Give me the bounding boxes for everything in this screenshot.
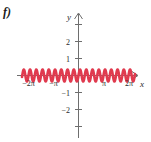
- y-axis-label: y: [66, 12, 71, 22]
- sine-curve: [22, 70, 135, 82]
- y-label-1: 1: [66, 55, 70, 64]
- x-label-2pi: 2π: [125, 79, 133, 88]
- x-label-pi: π: [102, 79, 106, 88]
- x-label-neg-2pi: −2π: [22, 79, 35, 88]
- part-label: f): [3, 6, 11, 18]
- sine-wave-figure: f) 2 1 −1 −2 −2π −π π 2π y: [0, 0, 151, 142]
- coordinate-plot: 2 1 −1 −2 −2π −π π 2π y x: [0, 0, 151, 142]
- y-label-neg-1: −1: [61, 89, 70, 98]
- y-label-2: 2: [66, 38, 70, 47]
- x-label-neg-pi: −π: [49, 79, 58, 88]
- x-axis-label: x: [139, 79, 144, 89]
- y-label-neg-2: −2: [61, 106, 70, 115]
